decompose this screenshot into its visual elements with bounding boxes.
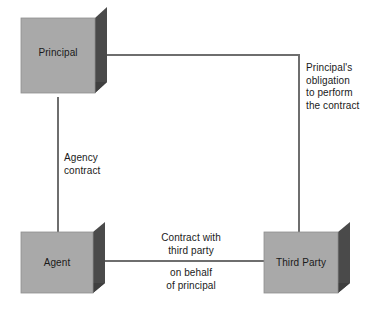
node-principal-label: Principal [21, 47, 95, 58]
node-third-party-side-face [338, 222, 350, 293]
node-agent-side-face [93, 222, 105, 293]
node-third-party-label: Third Party [264, 257, 338, 268]
edge-label-third-party-contract-below: on behalf of principal [130, 267, 252, 292]
node-agent-label: Agent [21, 257, 93, 268]
connector-principal-to-third-party [101, 55, 299, 236]
agency-relationship-diagram: Principal Agent Third Party Principal's … [0, 0, 375, 324]
edge-label-principal-obligation: Principal's obligation to perform the co… [306, 62, 359, 112]
edge-label-agency-contract: Agency contract [64, 152, 100, 177]
edge-label-third-party-contract-above: Contract with third party [130, 232, 252, 257]
node-principal-side-face [95, 7, 107, 93]
